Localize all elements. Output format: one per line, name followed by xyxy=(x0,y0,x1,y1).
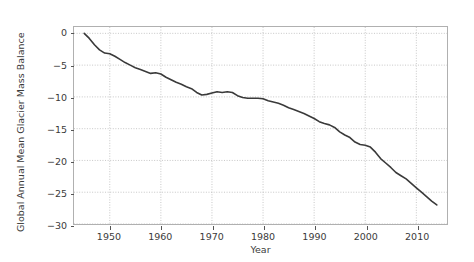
y-tick-label: −25 xyxy=(47,187,67,198)
x-tick-mark xyxy=(418,226,419,230)
x-tick-mark xyxy=(161,226,162,230)
x-tick-mark xyxy=(264,226,265,230)
y-tick-mark xyxy=(71,162,75,163)
x-tick-label: 1980 xyxy=(251,231,275,242)
x-tick-mark xyxy=(213,226,214,230)
y-tick-mark xyxy=(71,66,75,67)
y-tick-label: −30 xyxy=(47,220,67,231)
x-tick-mark xyxy=(110,226,111,230)
y-tick-label: −10 xyxy=(47,91,67,102)
x-tick-label: 1970 xyxy=(200,231,224,242)
x-tick-label: 2000 xyxy=(354,231,378,242)
glacier-mass-balance-chart: Global Annual Mean Glacier Mass Balance … xyxy=(0,0,474,262)
x-tick-label: 1960 xyxy=(148,231,172,242)
data-series-line xyxy=(74,27,447,224)
x-axis-tick-labels: 1950196019701980199020002010 xyxy=(73,231,448,245)
y-tick-mark xyxy=(71,98,75,99)
y-tick-label: −5 xyxy=(53,59,67,70)
x-tick-mark xyxy=(315,226,316,230)
x-tick-label: 2010 xyxy=(405,231,429,242)
x-tick-label: 1990 xyxy=(302,231,326,242)
x-axis-label: Year xyxy=(73,244,448,255)
x-tick-label: 1950 xyxy=(97,231,121,242)
y-tick-label: 0 xyxy=(61,27,67,38)
y-tick-label: −20 xyxy=(47,155,67,166)
y-tick-mark xyxy=(71,130,75,131)
y-tick-mark xyxy=(71,194,75,195)
y-tick-mark xyxy=(71,33,75,34)
y-axis-tick-labels: 0−5−10−15−20−25−30 xyxy=(0,26,67,225)
y-tick-label: −15 xyxy=(47,123,67,134)
y-tick-mark xyxy=(71,226,75,227)
x-tick-mark xyxy=(367,226,368,230)
plot-area xyxy=(73,26,448,225)
